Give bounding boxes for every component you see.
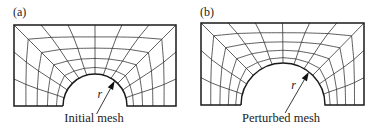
mesh-grid-lines [201,23,364,105]
caption-perturbed-mesh: Perturbed mesh [187,111,375,126]
radius-label: r [291,78,296,92]
arrowhead-icon [108,81,115,90]
arrowhead-icon [302,72,309,81]
caption-initial-mesh: Initial mesh [0,111,188,126]
panel-perturbed-mesh: r (b) Perturbed mesh [187,0,375,132]
panel-label-a: (a) [13,5,26,20]
radius-label: r [97,87,102,101]
mesh-grid-lines [14,25,176,106]
panel-label-b: (b) [200,5,214,20]
panel-initial-mesh: r (a) Initial mesh [0,0,188,132]
